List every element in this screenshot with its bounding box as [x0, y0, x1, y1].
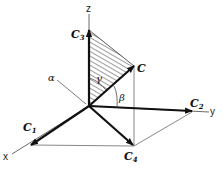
label-c3: C3 [71, 28, 85, 42]
z-axis-label: z [86, 3, 91, 14]
label-alpha: α [48, 72, 55, 83]
alpha-leader-line [57, 80, 86, 104]
label-c2: C2 [190, 97, 204, 111]
x-axis-label: x [3, 151, 8, 162]
vector-c2 [89, 106, 192, 111]
construction-line-c4-c2 [134, 112, 192, 146]
label-c: C [137, 62, 146, 75]
label-c4: C4 [124, 150, 138, 164]
vector-c4 [89, 106, 133, 145]
hatched-plane [89, 30, 134, 106]
beta-arc [114, 86, 117, 108]
label-beta: β [118, 92, 125, 103]
y-axis-label: y [210, 106, 215, 117]
label-gamma: γ [96, 73, 102, 84]
vector-c1 [31, 106, 89, 145]
construction-line-c1-c4 [31, 145, 134, 146]
label-c1: C1 [23, 121, 37, 135]
vector-diagram: z y x C3 C C2 C1 C4 α β γ [0, 0, 223, 172]
